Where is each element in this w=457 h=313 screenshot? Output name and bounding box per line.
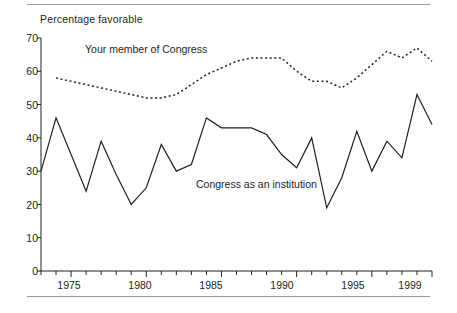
series-line-congress-institution: [41, 95, 432, 208]
x-axis-ticks: [41, 271, 432, 277]
y-axis-ticks: [37, 38, 41, 271]
chart-figure: Percentage favorable 70 60 50 40 30 20 1…: [0, 0, 457, 313]
series-line-your-member: [56, 48, 432, 98]
chart-plot-area: [0, 0, 457, 313]
axes: [41, 38, 432, 271]
